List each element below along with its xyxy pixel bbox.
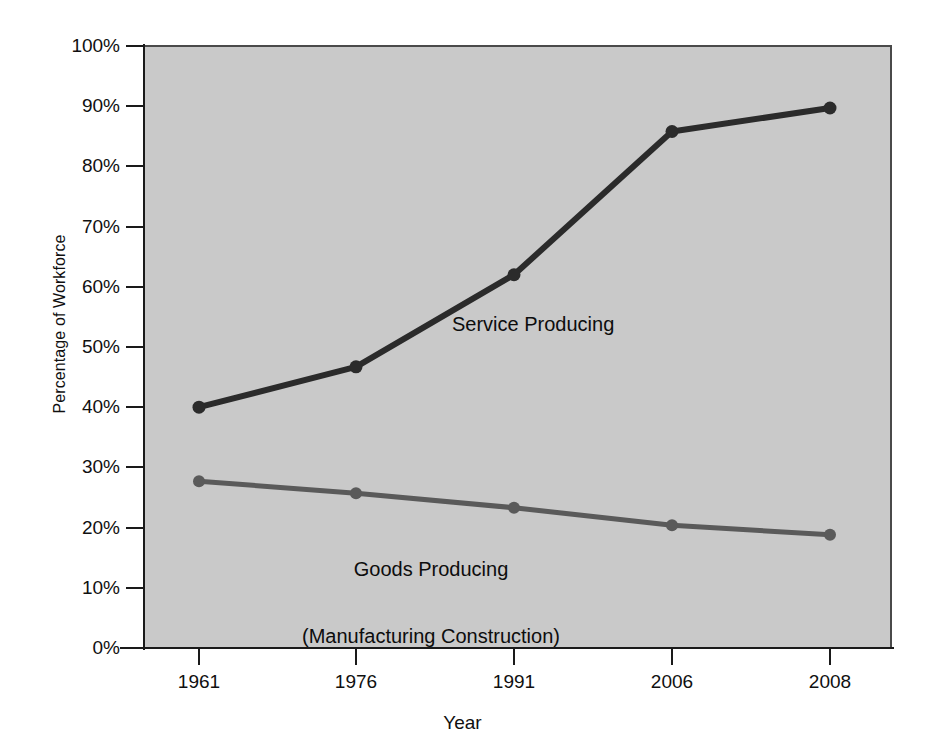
x-tick-1961 [198,649,200,665]
y-tick-70 [126,226,143,228]
y-tick-label: 10% [8,578,120,597]
y-tick-40 [126,406,143,408]
y-tick-label: 0% [8,638,120,657]
y-tick-label: 90% [8,96,120,115]
y-axis-title: Percentage of Workforce [51,114,69,534]
y-tick-60 [126,286,143,288]
series-annotation-service-producing: Service Producing [452,313,614,335]
y-tick-80 [126,165,143,167]
x-tick-2008 [829,649,831,665]
x-tick-label: 1961 [139,672,259,691]
series-annotation-goods-line2: (Manufacturing Construction) [281,625,581,647]
y-tick-50 [126,346,143,348]
y-tick-30 [126,466,143,468]
chart-figure: 0%10%20%30%40%50%60%70%80%90%100% 196119… [0,0,925,745]
y-tick-0 [126,647,143,649]
x-tick-2006 [671,649,673,665]
series-annotation-goods-producing: Goods Producing (Manufacturing Construct… [281,513,581,692]
y-tick-100 [126,45,143,47]
y-axis-line [143,44,145,650]
y-tick-label: 100% [8,36,120,55]
y-tick-20 [126,527,143,529]
x-tick-label: 2006 [612,672,732,691]
x-axis-title: Year [0,712,925,734]
x-tick-label: 2008 [770,672,890,691]
y-tick-90 [126,105,143,107]
y-tick-10 [126,587,143,589]
series-annotation-goods-line1: Goods Producing [281,558,581,580]
